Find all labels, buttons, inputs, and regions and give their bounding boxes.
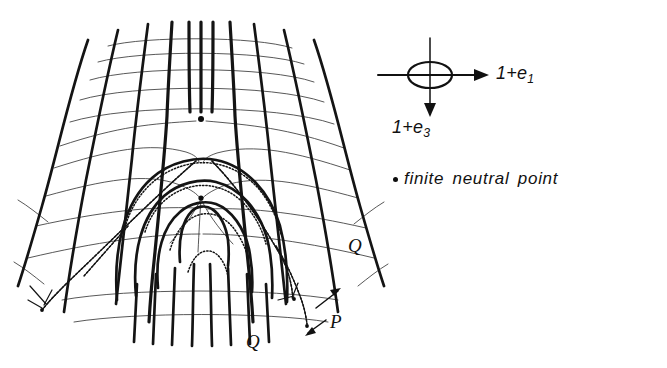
axis-label-e3: 1+e3	[392, 118, 430, 139]
region-label-p: P	[330, 312, 342, 331]
legend-neutral-point-label: finite neutral point	[404, 170, 558, 187]
region-label-q-right: Q	[348, 236, 362, 255]
legend-strain-ellipse-group	[378, 38, 489, 117]
legend-neutral-point-bullet-icon	[393, 177, 398, 182]
axis-label-e3-base: 1+e	[392, 117, 423, 137]
axis-label-e1: 1+e1	[496, 64, 534, 85]
arrow-head-e3	[424, 103, 436, 117]
neutral-point-upper	[198, 116, 204, 122]
region-label-q-bottom: Q	[246, 332, 260, 351]
axis-label-e3-subscript: 3	[423, 126, 430, 140]
neutral-point-lower	[198, 195, 203, 200]
arrow-head-e1	[474, 69, 489, 81]
figure-root: Q Q P 1+e1 1+e3 finite neutral point	[0, 0, 667, 368]
axis-label-e1-base: 1+e	[496, 63, 527, 83]
axis-label-e1-subscript: 1	[527, 72, 534, 86]
